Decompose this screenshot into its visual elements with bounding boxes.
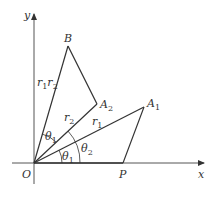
label-B: B — [63, 32, 72, 45]
segment-PA1 — [123, 107, 144, 163]
label-y: y — [23, 9, 31, 22]
label-r1r2: r1r2 — [37, 76, 58, 91]
segment-OB — [34, 46, 68, 163]
label-theta1-bottom: θ1 — [62, 150, 74, 165]
label-r2: r2 — [64, 111, 74, 126]
segment-A2B — [68, 46, 97, 104]
complex-multiplication-diagram: y x O P B A2 A1 r1r2 r2 r1 θ1 θ1 θ2 — [0, 0, 222, 197]
label-theta1-top: θ1 — [45, 130, 57, 145]
label-r1: r1 — [92, 115, 102, 130]
label-A1: A1 — [146, 97, 160, 112]
label-theta2: θ2 — [81, 142, 93, 157]
label-O: O — [22, 168, 31, 181]
label-x: x — [198, 168, 205, 181]
label-A2: A2 — [99, 98, 113, 113]
label-P: P — [118, 168, 127, 181]
